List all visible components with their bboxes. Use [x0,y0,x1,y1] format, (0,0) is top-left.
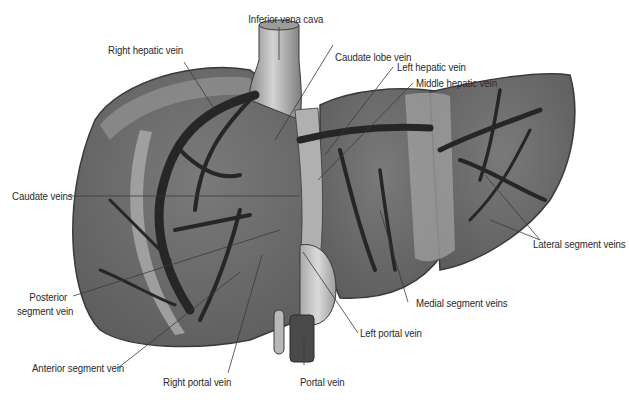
label-lateral-segment-veins: Lateral segment veins [533,238,626,250]
label-left-portal-vein: Left portal vein [360,327,422,339]
label-portal-vein: Portal vein [300,376,345,388]
label-inferior-vena-cava: Inferior vena cava [248,13,323,25]
label-posterior-segment-vein-line1: Posterior [29,291,67,303]
label-right-portal-vein: Right portal vein [163,376,231,388]
label-posterior-segment-vein-line2: segment vein [17,305,73,317]
label-left-hepatic-vein: Left hepatic vein [397,61,466,73]
label-right-hepatic-vein: Right hepatic vein [108,44,183,56]
label-middle-hepatic-vein: Middle hepatic vein [416,77,497,89]
label-medial-segment-veins: Medial segment veins [416,297,508,309]
hepatic-artery [274,310,284,354]
liver-venous-anatomy-illustration [0,0,629,400]
portal-vein-trunk [290,315,314,362]
label-anterior-segment-vein: Anterior segment vein [32,362,124,374]
label-caudate-veins: Caudate veins [12,190,73,202]
